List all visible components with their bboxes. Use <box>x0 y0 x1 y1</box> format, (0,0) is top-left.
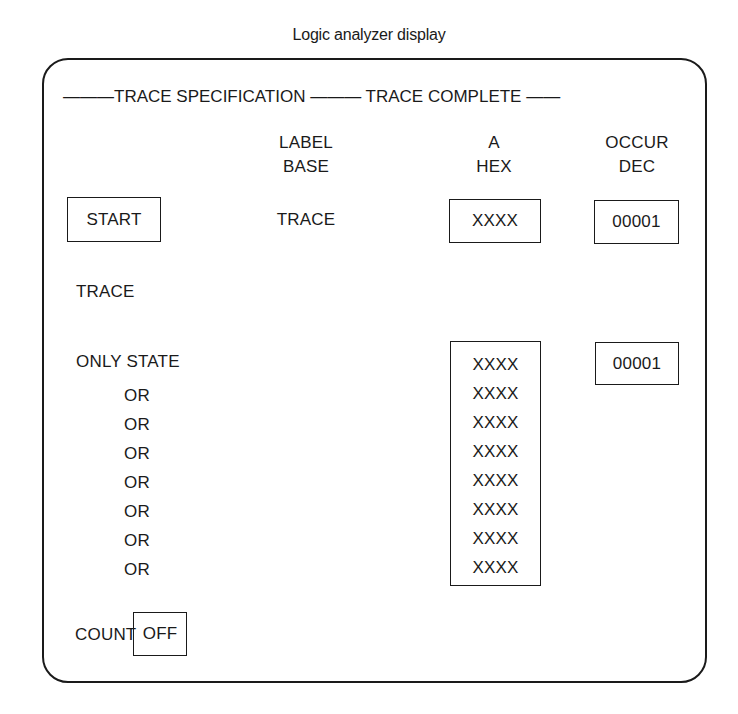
state-a-field[interactable]: XXXX <box>472 553 518 582</box>
start-button[interactable]: START <box>67 197 161 242</box>
state-a-field[interactable]: XXXX <box>472 350 518 379</box>
header-left-dashes: ——— <box>63 87 114 106</box>
start-mode-value[interactable]: TRACE <box>277 210 336 230</box>
or-label: OR <box>124 468 150 497</box>
label-column-header: LABEL BASE <box>279 133 333 177</box>
trace-specification-title: TRACE SPECIFICATION <box>114 87 305 106</box>
header-line: ———TRACE SPECIFICATION ——— TRACE COMPLET… <box>63 87 560 107</box>
start-occur-field[interactable]: 00001 <box>594 200 679 244</box>
occur-header-line2: DEC <box>605 157 668 177</box>
a-header-line2: HEX <box>476 157 512 177</box>
or-label: OR <box>124 381 150 410</box>
state-a-field[interactable]: XXXX <box>472 524 518 553</box>
or-label: OR <box>124 410 150 439</box>
figure-caption: Logic analyzer display <box>0 26 738 44</box>
only-state-occur-field[interactable]: 00001 <box>595 342 679 385</box>
start-a-field[interactable]: XXXX <box>449 199 541 243</box>
count-toggle[interactable]: OFF <box>133 612 187 656</box>
a-column-header: A HEX <box>476 133 512 177</box>
state-a-field[interactable]: XXXX <box>472 408 518 437</box>
occur-header-line1: OCCUR <box>605 133 668 153</box>
only-state-label[interactable]: ONLY STATE <box>76 352 180 372</box>
label-header-line1: LABEL <box>279 133 333 153</box>
header-right-dashes: —— <box>526 87 560 106</box>
or-label: OR <box>124 526 150 555</box>
count-label: COUNT <box>75 625 136 645</box>
state-a-field[interactable]: XXXX <box>472 466 518 495</box>
trace-label: TRACE <box>76 282 135 302</box>
or-list: OR OR OR OR OR OR OR <box>124 381 150 584</box>
trace-status: TRACE COMPLETE <box>366 87 522 106</box>
or-label: OR <box>124 439 150 468</box>
header-mid-dashes: ——— <box>310 87 361 106</box>
state-a-field[interactable]: XXXX <box>472 379 518 408</box>
only-state-a-values: XXXX XXXX XXXX XXXX XXXX XXXX XXXX XXXX <box>450 341 541 586</box>
label-header-line2: BASE <box>279 157 333 177</box>
or-label: OR <box>124 497 150 526</box>
a-header-line1: A <box>476 133 512 153</box>
state-a-field[interactable]: XXXX <box>472 495 518 524</box>
or-label: OR <box>124 555 150 584</box>
occur-column-header: OCCUR DEC <box>605 133 668 177</box>
state-a-field[interactable]: XXXX <box>472 437 518 466</box>
